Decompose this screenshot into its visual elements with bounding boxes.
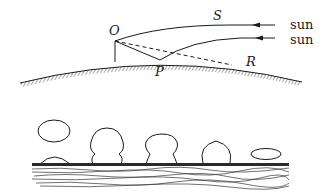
droplet-1-top xyxy=(38,120,70,142)
droplet-3 xyxy=(146,134,178,164)
arrow-head-2 xyxy=(255,36,263,41)
label-sun-2: sun xyxy=(290,32,314,47)
bottom-panel xyxy=(38,120,281,164)
wavy-lines xyxy=(32,167,289,189)
label-o: O xyxy=(109,23,120,38)
label-sun-1: sun xyxy=(290,17,314,32)
optics-diagram: O S P R sun sun xyxy=(0,0,331,193)
label-p: P xyxy=(154,64,164,79)
liquid-surface xyxy=(32,163,289,189)
top-panel: O S P R sun sun xyxy=(20,8,314,87)
dashed-line-or xyxy=(115,41,232,65)
droplet-4 xyxy=(202,141,231,163)
reflected-ray-op xyxy=(115,41,160,60)
label-r: R xyxy=(245,54,256,69)
ray-s xyxy=(115,25,275,41)
label-s: S xyxy=(213,8,222,23)
arrow-head-1 xyxy=(252,23,260,28)
droplet-2 xyxy=(91,128,124,164)
ray-to-p xyxy=(160,38,275,60)
droplet-1-base xyxy=(40,157,70,164)
surface-bar xyxy=(32,163,289,166)
droplet-5 xyxy=(251,149,281,160)
